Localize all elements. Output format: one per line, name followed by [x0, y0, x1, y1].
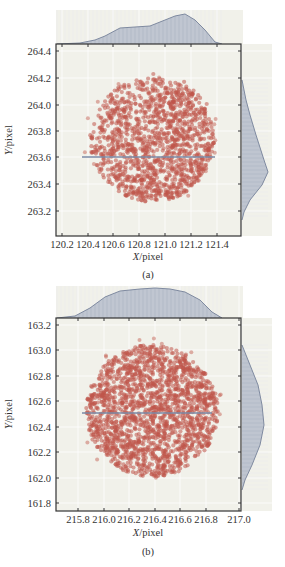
x-tick-label: 121.4 — [205, 239, 229, 250]
y-tick-label: 162.0 — [27, 473, 51, 484]
y-tick-label: 162.8 — [27, 371, 51, 382]
x-tick-label: 215.8 — [66, 514, 90, 525]
x-tick-label: 216.0 — [92, 514, 116, 525]
figure-caption: (a) — [142, 269, 154, 281]
y-tick-label: 162.2 — [27, 447, 51, 458]
x-axis-label: X/pixel — [132, 527, 163, 538]
plot-panel-b: 215.8216.0216.2216.4216.6216.8217.0163.2… — [3, 286, 272, 558]
y-tick-label: 263.4 — [27, 179, 51, 190]
y-tick-label: 263.6 — [27, 152, 51, 163]
x-tick-label: 120.6 — [101, 239, 125, 250]
y-tick-label: 163.0 — [27, 345, 51, 356]
x-tick-label: 216.4 — [143, 514, 167, 525]
figure-caption: (b) — [142, 546, 155, 558]
y-tick-label: 161.8 — [27, 498, 51, 509]
y-tick-label: 162.4 — [27, 422, 51, 433]
y-tick-label: 264.0 — [27, 100, 51, 111]
y-tick-label: 263.2 — [27, 206, 51, 217]
y-axis-label: Y/pixel — [3, 399, 14, 429]
y-tick-label: 264.4 — [27, 46, 51, 57]
x-tick-label: 217.0 — [227, 514, 251, 525]
y-tick-label: 163.2 — [27, 320, 51, 331]
y-axis-label: Y/pixel — [3, 125, 14, 155]
x-tick-label: 120.8 — [127, 239, 151, 250]
y-tick-label: 264.2 — [27, 73, 51, 84]
y-tick-label: 263.8 — [27, 126, 51, 137]
y-tick-label: 162.6 — [27, 396, 51, 407]
x-tick-label: 216.6 — [168, 514, 192, 525]
x-tick-label: 216.8 — [194, 514, 218, 525]
x-tick-label: 216.2 — [117, 514, 141, 525]
x-axis-label: X/pixel — [132, 251, 163, 262]
figure: 120.2120.4120.6120.8121.0121.2121.4264.4… — [0, 0, 285, 567]
x-tick-label: 120.2 — [50, 239, 74, 250]
plot-panel-a: 120.2120.4120.6120.8121.0121.2121.4264.4… — [3, 10, 272, 281]
x-tick-label: 121.2 — [179, 239, 203, 250]
x-tick-label: 121.0 — [153, 239, 177, 250]
x-tick-label: 120.4 — [76, 239, 100, 250]
